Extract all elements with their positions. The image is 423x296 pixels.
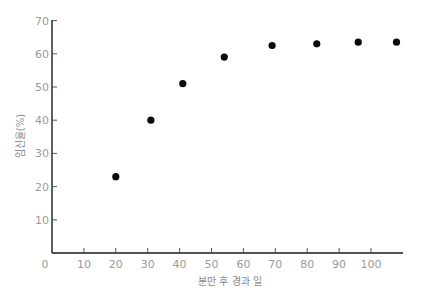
x-tick-label: 0 — [42, 258, 49, 271]
data-point — [313, 40, 320, 47]
y-axis-title: 임신율(%) — [14, 114, 26, 158]
y-tick-label: 70 — [35, 15, 49, 28]
x-tick-label: 30 — [141, 258, 155, 271]
x-axis-ticks: 0102030405060708090100 — [42, 248, 382, 271]
data-point — [147, 117, 154, 124]
x-tick-label: 70 — [268, 258, 282, 271]
x-tick-label: 90 — [332, 258, 346, 271]
y-axis-ticks: 10203040506070 — [35, 15, 57, 227]
axes — [52, 20, 403, 253]
x-tick-label: 50 — [205, 258, 219, 271]
x-tick-label: 80 — [300, 258, 314, 271]
x-tick-label: 100 — [361, 258, 382, 271]
y-tick-label: 10 — [35, 214, 49, 227]
scatter-chart: 0102030405060708090100 10203040506070 분만… — [0, 0, 423, 296]
y-tick-label: 30 — [35, 147, 49, 160]
data-point — [355, 39, 362, 46]
data-point — [179, 80, 186, 87]
x-tick-label: 20 — [109, 258, 123, 271]
data-point — [269, 42, 276, 49]
y-tick-label: 40 — [35, 114, 49, 127]
y-tick-label: 20 — [35, 181, 49, 194]
y-tick-label: 50 — [35, 81, 49, 94]
x-tick-label: 60 — [236, 258, 250, 271]
x-axis-title: 분만 후 경과 일 — [198, 275, 262, 287]
data-point — [393, 39, 400, 46]
data-point — [221, 54, 228, 61]
data-points — [112, 39, 400, 181]
data-point — [112, 173, 119, 180]
x-tick-label: 10 — [77, 258, 91, 271]
x-tick-label: 40 — [173, 258, 187, 271]
y-tick-label: 60 — [35, 48, 49, 61]
